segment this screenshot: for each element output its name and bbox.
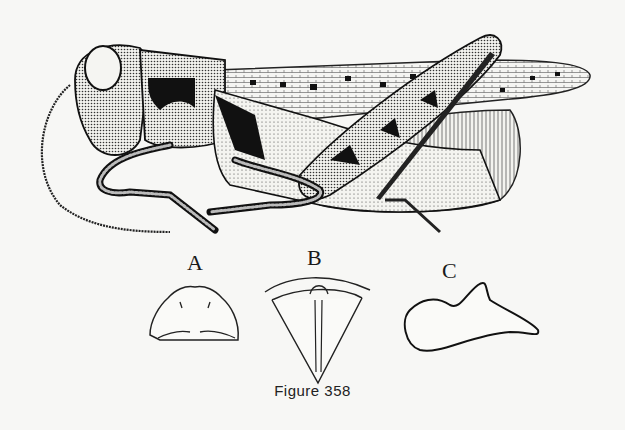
subfigure-label-a: A <box>187 250 203 276</box>
figure-358: A B C Figure 358 <box>0 0 625 430</box>
grasshopper-illustration <box>0 0 625 430</box>
figure-caption: Figure 358 <box>0 382 625 399</box>
subfigure-label-b: B <box>307 245 322 271</box>
eye <box>85 46 121 90</box>
subfigure-a-shape <box>150 287 238 340</box>
subfigure-c-shape <box>405 283 538 351</box>
subfigure-label-c: C <box>442 258 457 284</box>
